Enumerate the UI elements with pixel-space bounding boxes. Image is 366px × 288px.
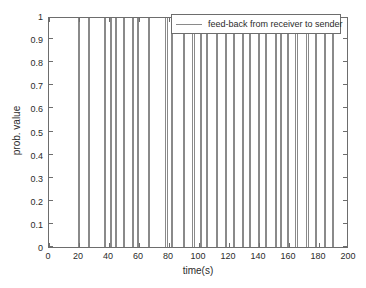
y-axis-tick (343, 154, 347, 155)
impulse-line (201, 17, 202, 247)
x-axis-tick (49, 18, 50, 22)
impulse-line (308, 17, 309, 247)
y-axis-tick (49, 223, 53, 224)
x-axis-tick (259, 243, 260, 247)
impulse-line (79, 17, 80, 247)
y-axis-tick (343, 107, 347, 108)
impulse-line (250, 17, 251, 247)
impulse-line (194, 17, 195, 247)
impulse-line (217, 17, 218, 247)
impulse-line (281, 17, 282, 247)
x-axis-tick (109, 18, 110, 22)
impulse-line (234, 17, 235, 247)
y-axis-tick (49, 131, 53, 132)
impulse-line (243, 17, 244, 247)
plot-area (48, 17, 348, 248)
x-axis-tick (79, 18, 80, 22)
y-tick-label: 0.6 (0, 104, 43, 114)
y-tick-label: 1 (0, 12, 43, 22)
y-tick-label: 0.4 (0, 151, 43, 161)
x-tick-label: 200 (328, 251, 366, 262)
y-axis-tick (49, 84, 53, 85)
impulse-line (149, 17, 150, 247)
impulse-line (111, 17, 112, 247)
y-axis-tick (49, 177, 53, 178)
x-axis-tick (109, 243, 110, 247)
legend-entry-label: feed-back from receiver to sender (208, 19, 343, 29)
impulse-line (266, 17, 267, 247)
y-axis-tick (49, 154, 53, 155)
impulse-line (133, 17, 134, 247)
y-tick-label: 0.7 (0, 81, 43, 91)
y-axis-tick (343, 177, 347, 178)
impulse-line (226, 17, 227, 247)
x-axis-tick (319, 243, 320, 247)
impulse-line (116, 17, 117, 247)
legend-line-swatch (176, 24, 202, 25)
impulse-line (259, 17, 260, 247)
impulse-line (276, 17, 277, 247)
chart-legend: feed-back from receiver to sender (171, 14, 341, 34)
y-tick-label: 0.3 (0, 174, 43, 184)
y-axis-tick (343, 38, 347, 39)
y-tick-label: 0.9 (0, 35, 43, 45)
x-axis-tick (139, 243, 140, 247)
y-axis-tick (343, 84, 347, 85)
y-axis-tick (49, 61, 53, 62)
y-axis-tick (343, 223, 347, 224)
impulse-line (172, 17, 173, 247)
impulse-line (89, 17, 90, 247)
impulse-line (207, 17, 208, 247)
x-axis-tick (229, 243, 230, 247)
x-axis-tick (169, 243, 170, 247)
impulse-line (184, 17, 185, 247)
impulse-line (325, 17, 326, 247)
impulse-line (316, 17, 317, 247)
y-tick-label: 0.2 (0, 197, 43, 207)
impulse-line (288, 17, 289, 247)
y-axis-tick (343, 61, 347, 62)
x-axis-tick (289, 243, 290, 247)
y-tick-label: 0.1 (0, 220, 43, 230)
y-axis-tick (343, 246, 347, 247)
impulse-line (167, 17, 168, 247)
y-axis-tick (49, 107, 53, 108)
y-axis-tick (343, 200, 347, 201)
x-axis-tick (169, 18, 170, 22)
x-axis-tick (79, 243, 80, 247)
impulse-line (333, 17, 334, 247)
impulse-line (138, 17, 139, 247)
x-axis-title: time(s) (48, 265, 348, 276)
chart-figure: prob. value 00.10.20.30.40.50.60.70.80.9… (0, 0, 366, 288)
y-tick-label: 0.5 (0, 128, 43, 138)
y-axis-tick (343, 131, 347, 132)
impulse-line (124, 17, 125, 247)
x-axis-tick (199, 243, 200, 247)
impulse-series (49, 18, 347, 247)
impulse-line (105, 17, 106, 247)
y-axis-tick (49, 246, 53, 247)
y-axis-tick (49, 38, 53, 39)
x-axis-tick (139, 18, 140, 22)
y-tick-label: 0.8 (0, 58, 43, 68)
impulse-line (297, 17, 298, 247)
y-axis-tick (49, 200, 53, 201)
